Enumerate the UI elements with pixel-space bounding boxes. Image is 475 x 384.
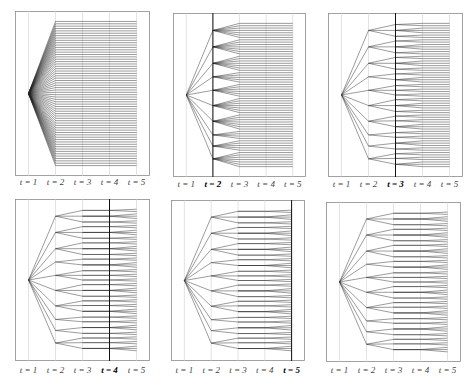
tree-panel-5 xyxy=(171,200,305,361)
tree-panel-4 xyxy=(15,199,150,361)
stage-label-t1: t = 1 xyxy=(178,179,196,189)
stage-label-t3: t = 3 xyxy=(387,179,404,189)
tree-panel-1 xyxy=(15,11,150,176)
stage-label-t3: t = 3 xyxy=(385,365,403,375)
stage-label-t1: t = 1 xyxy=(20,177,38,187)
stage-label-t2: t = 2 xyxy=(47,177,65,187)
stage-label-t5: t = 5 xyxy=(283,365,300,375)
stage-label-t4: t = 4 xyxy=(412,365,430,375)
stage-label-t3: t = 3 xyxy=(74,177,92,187)
stage-label-t4: t = 4 xyxy=(256,365,274,375)
stage-label-t2: t = 2 xyxy=(358,365,376,375)
stage-label-t5: t = 5 xyxy=(441,179,459,189)
tree-panel-2 xyxy=(173,13,306,177)
stage-label-t4: t = 4 xyxy=(101,177,119,187)
stage-label-t3: t = 3 xyxy=(231,179,249,189)
stage-label-t3: t = 3 xyxy=(229,365,247,375)
stage-label-t2: t = 2 xyxy=(47,365,65,375)
stage-label-t5: t = 5 xyxy=(284,179,302,189)
stage-label-t5: t = 5 xyxy=(128,365,146,375)
stage-label-t4: t = 4 xyxy=(257,179,275,189)
stage-label-t1: t = 1 xyxy=(176,365,194,375)
stage-label-t4: t = 4 xyxy=(414,179,432,189)
stage-label-t3: t = 3 xyxy=(74,365,92,375)
stage-label-t1: t = 1 xyxy=(20,365,38,375)
stage-label-t1: t = 1 xyxy=(333,179,351,189)
stage-label-t5: t = 5 xyxy=(439,365,457,375)
stage-label-t5: t = 5 xyxy=(128,177,146,187)
stage-label-t2: t = 2 xyxy=(202,365,220,375)
stage-label-t2: t = 2 xyxy=(360,179,378,189)
stage-label-t4: t = 4 xyxy=(101,365,118,375)
stage-label-t2: t = 2 xyxy=(205,179,222,189)
stage-label-t1: t = 1 xyxy=(331,365,349,375)
tree-panel-6 xyxy=(326,202,461,362)
tree-panel-3 xyxy=(328,13,463,177)
